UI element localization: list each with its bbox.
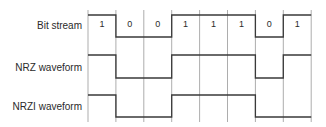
bit-value-label: 0 [155,19,160,29]
bit-value-label: 0 [127,19,132,29]
waveform-diagram: 10011101 [0,0,326,127]
bit-value-label: 1 [99,19,104,29]
bit-value-label: 1 [239,19,244,29]
bit-value-label: 1 [211,19,216,29]
bit-value-label: 1 [295,19,300,29]
bit-value-label: 1 [183,19,188,29]
bit-value-label: 0 [267,19,272,29]
